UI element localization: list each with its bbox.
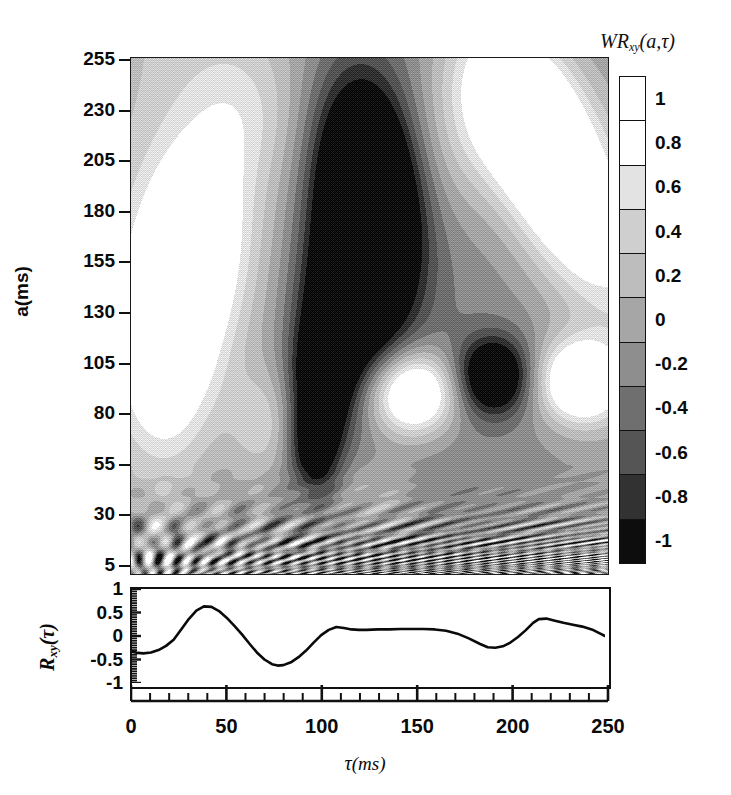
contour-y-axis-label: a(ms)	[12, 266, 31, 317]
contour-y-tick	[119, 413, 130, 415]
correlation-y-tick-label: -1	[55, 673, 123, 692]
colorbar-tick-label: 0.4	[655, 221, 681, 243]
x-axis-label-unit: (ms)	[352, 753, 386, 774]
contour-y-tick-label: 30	[55, 504, 115, 523]
x-axis-tick-label: 200	[496, 716, 529, 736]
colorbar-tick-label: 1	[655, 88, 666, 110]
contour-y-tick-label: 155	[55, 251, 115, 270]
contour-y-tick	[119, 565, 130, 567]
figure-root: 2552302051801551301058055305 a(ms) WRxy(…	[0, 0, 731, 795]
contour-y-tick	[119, 514, 130, 516]
colorbar-band	[620, 121, 645, 165]
x-axis-tick-label: 100	[305, 716, 338, 736]
colorbar-tick-label: 0	[655, 309, 666, 331]
contour-y-tick	[119, 312, 130, 314]
contour-y-tick-label: 230	[55, 100, 115, 119]
colorbar-tick-label: 0.2	[655, 265, 681, 287]
colorbar-band	[620, 387, 645, 431]
contour-y-tick-label: 5	[55, 555, 115, 574]
colorbar-title-args: (a,τ)	[640, 30, 675, 52]
contour-y-tick	[119, 59, 130, 61]
colorbar-band	[620, 475, 645, 519]
wavelet-coherence-map	[130, 57, 609, 575]
x-axis-label: τ(ms)	[345, 752, 386, 775]
colorbar-tick-label: -0.4	[655, 397, 688, 419]
colorbar-band	[620, 520, 645, 563]
x-axis-tick-label: 150	[401, 716, 434, 736]
colorbar-band	[620, 210, 645, 254]
heatmap-canvas	[131, 58, 608, 574]
contour-y-tick	[119, 211, 130, 213]
x-axis-tick-label: 250	[591, 716, 624, 736]
contour-y-tick-label: 255	[55, 49, 115, 68]
correlation-y-axis-label: Rxy(τ)	[37, 623, 59, 671]
contour-y-tick-label: 130	[55, 302, 115, 321]
correlation-y-tick-label: 0.5	[55, 603, 123, 622]
correlation-y-tick-label: 1	[55, 579, 123, 598]
correlation-line	[132, 606, 605, 665]
contour-y-tick	[119, 363, 130, 365]
correlation-y-label-main: R	[36, 658, 58, 671]
colorbar-tick-label: -0.6	[655, 442, 688, 464]
colorbar-tick-label: -1	[655, 530, 672, 552]
colorbar-title: WRxy(a,τ)	[600, 30, 675, 55]
correlation-y-label-args: (τ)	[36, 623, 58, 645]
contour-y-tick-label: 105	[55, 353, 115, 372]
x-axis-ruler	[130, 685, 611, 711]
x-axis-tick-label: 0	[125, 716, 136, 736]
colorbar-tick-label: -0.2	[655, 353, 688, 375]
colorbar-band	[620, 166, 645, 210]
colorbar-band	[620, 298, 645, 342]
colorbar-tick-label: 0.8	[655, 132, 681, 154]
colorbar	[619, 76, 646, 564]
contour-y-tick-label: 55	[55, 454, 115, 473]
colorbar-band	[620, 254, 645, 298]
colorbar-title-main: WR	[600, 30, 629, 52]
colorbar-tick-label: 0.6	[655, 176, 681, 198]
cross-correlation-plot	[130, 587, 611, 689]
correlation-y-label-subscript: xy	[45, 645, 60, 657]
cross-correlation-curve-svg	[132, 589, 605, 683]
x-axis-tick-label: 50	[215, 716, 237, 736]
contour-y-tick	[119, 110, 130, 112]
colorbar-band	[620, 431, 645, 475]
contour-y-tick-label: 80	[55, 403, 115, 422]
contour-y-tick-label: 205	[55, 150, 115, 169]
contour-y-tick-label: 180	[55, 201, 115, 220]
correlation-y-tick-label: -0.5	[55, 650, 123, 669]
colorbar-tick-label: -0.8	[655, 486, 688, 508]
contour-y-tick	[119, 464, 130, 466]
contour-y-tick	[119, 160, 130, 162]
colorbar-title-subscript: xy	[629, 40, 640, 54]
correlation-y-tick-label: 0	[55, 626, 123, 645]
contour-y-tick	[119, 261, 130, 263]
colorbar-band	[620, 343, 645, 387]
colorbar-band	[620, 77, 645, 121]
